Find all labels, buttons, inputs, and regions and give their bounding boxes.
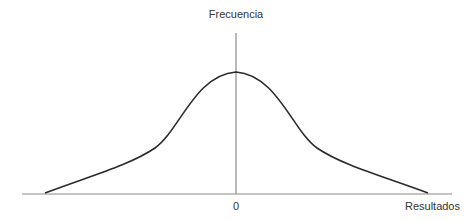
y-axis-label: Frecuencia: [209, 8, 263, 20]
x-axis-label: Resultados: [405, 200, 460, 212]
origin-tick-label: 0: [233, 200, 239, 212]
bell-curve-chart: [0, 0, 469, 221]
